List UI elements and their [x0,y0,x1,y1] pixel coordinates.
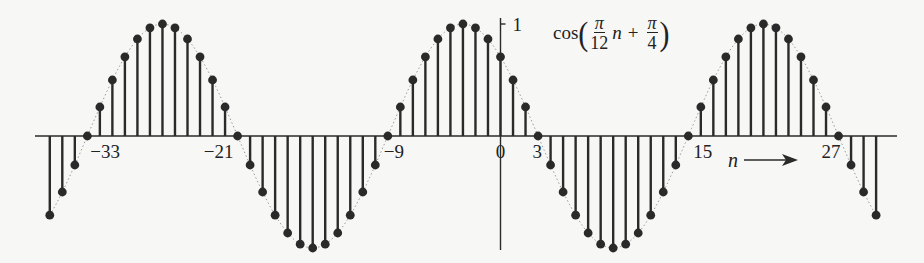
x-axis-label: n [728,149,738,172]
x-tick-label: −9 [384,141,404,162]
stem [308,136,317,252]
stem [133,35,142,136]
fraction-pi-over-12: π12 [590,14,608,52]
stem [434,35,443,136]
fraction-pi-over-4: π4 [647,14,658,52]
stem [571,136,580,220]
stem [684,132,693,141]
stem [183,35,192,136]
stem [121,52,130,136]
x-tick-label: 27 [822,141,841,162]
stem [747,23,756,136]
stem [546,136,555,169]
stem [208,76,217,136]
stem [496,52,505,136]
stem [271,136,280,220]
stem [233,132,242,141]
stem [609,136,618,252]
y-tick-label-1: 1 [513,14,523,35]
frac2-denominator: 4 [648,33,657,52]
stem [646,136,655,220]
stem [872,136,881,220]
stem [58,136,67,196]
stem [83,132,92,141]
stem [859,136,868,196]
stem [847,136,856,169]
stem [559,136,568,196]
stem [509,76,518,136]
stem [321,136,330,249]
x-tick-label: 15 [693,141,712,162]
stem-plot: 1 −33−21−9031527 [0,0,924,263]
stem [721,52,730,136]
stem [834,132,843,141]
stem [709,76,718,136]
x-tick-label: −21 [204,141,234,162]
stem [696,103,705,136]
stem [459,20,468,136]
stem [596,136,605,249]
frac1-numerator: π [594,14,605,33]
function-label: cos(π12n+π4) [553,14,670,52]
x-tick-label: −33 [90,141,120,162]
stem [446,23,455,136]
stem [621,136,630,249]
x-tick-label: 0 [496,141,506,162]
stem [358,136,367,196]
stem [809,76,818,136]
stem [221,103,230,136]
stem [534,132,543,141]
stem [146,23,155,136]
frac2-numerator: π [647,14,658,33]
stem [822,103,831,136]
stem [258,136,267,196]
stem [659,136,668,196]
stem [296,136,305,249]
stem [70,136,79,169]
stem [521,103,530,136]
stem [734,35,743,136]
stem [371,136,380,169]
stem [634,136,643,237]
left-paren: ( [578,16,588,51]
stem [408,76,417,136]
stem [383,132,392,141]
stem [346,136,355,220]
stem [283,136,292,237]
cos-text: cos [553,22,578,44]
right-paren: ) [660,16,670,51]
right-arrow-icon [742,150,802,170]
stem [772,23,781,136]
stem [471,23,480,136]
stem [95,103,104,136]
var-n: n [612,22,622,44]
x-axis-label-n: n [728,149,738,171]
plus-sign: + [628,22,639,44]
frac1-denominator: 12 [590,33,608,52]
stem [797,52,806,136]
stem [171,23,180,136]
stem [246,136,255,169]
stem [584,136,593,237]
stem [196,52,205,136]
stem [108,76,117,136]
stem [333,136,342,237]
stem [784,35,793,136]
stem [421,52,430,136]
axes: 1 [35,14,897,250]
x-tick-label: 3 [533,141,543,162]
stem [45,136,54,220]
stem [671,136,680,169]
stem [158,20,167,136]
stem [484,35,493,136]
stem [759,20,768,136]
stem [396,103,405,136]
